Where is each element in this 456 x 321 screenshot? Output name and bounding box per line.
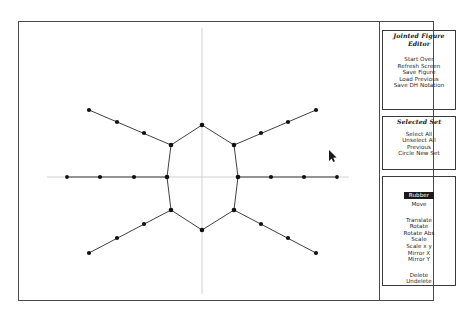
menu-item-scale-x-y[interactable]: Scale x y bbox=[383, 243, 455, 250]
panel-section-transform-tools: Rubber Move Translate Rotate Rotate Abs … bbox=[382, 176, 456, 286]
joint-upper-right-2 bbox=[286, 120, 290, 124]
section-title-line1: Jointed Figure bbox=[383, 32, 455, 40]
spacer bbox=[383, 47, 455, 56]
application-window: Jointed Figure Editor Start Over Refresh… bbox=[18, 21, 434, 301]
control-panel: Jointed Figure Editor Start Over Refresh… bbox=[380, 22, 433, 300]
menu-item-save-dh-notation[interactable]: Save DH Notation bbox=[383, 82, 455, 89]
spacer bbox=[383, 208, 455, 217]
menu-list-delete: Delete Undelete bbox=[383, 272, 455, 285]
menu-item-move[interactable]: Move bbox=[383, 201, 455, 208]
joint-lower-right-2 bbox=[286, 236, 290, 240]
limb-lower-left bbox=[89, 210, 171, 253]
joint-upper-left-3 bbox=[87, 108, 91, 112]
menu-item-load-previous[interactable]: Load Previous bbox=[383, 76, 455, 83]
menu-item-mirror-y[interactable]: Mirror Y bbox=[383, 256, 455, 263]
menu-list-figure-editor: Start Over Refresh Screen Save Figure Lo… bbox=[383, 56, 455, 89]
section-title-jointed-figure-editor: Jointed Figure Editor bbox=[383, 31, 455, 47]
joint-body-right-upper bbox=[232, 143, 237, 148]
menu-list-transforms: Translate Rotate Rotate Abs Scale Scale … bbox=[383, 217, 455, 263]
menu-item-previous[interactable]: Previous bbox=[383, 144, 455, 151]
limb-lower-right bbox=[234, 210, 316, 253]
joint-left-h-1 bbox=[132, 175, 136, 179]
menu-item-start-over[interactable]: Start Over bbox=[383, 56, 455, 63]
panel-section-selected-set: Selected Set Select All Unselect All Pre… bbox=[382, 116, 456, 170]
section-title-line2: Editor bbox=[383, 40, 455, 48]
menu-item-rubber[interactable]: Rubber bbox=[404, 192, 434, 199]
joint-body-right-mid bbox=[236, 175, 241, 180]
mouse-cursor-icon bbox=[329, 150, 337, 162]
joint-body-right-lower bbox=[232, 208, 237, 213]
menu-item-unselect-all[interactable]: Unselect All bbox=[383, 137, 455, 144]
section-title-line1: Selected Set bbox=[383, 118, 455, 126]
joint-lower-left-2 bbox=[115, 236, 119, 240]
joint-lower-left-1 bbox=[142, 222, 146, 226]
joint-upper-left-2 bbox=[115, 120, 119, 124]
joint-body-top bbox=[200, 123, 205, 128]
joint-right-h-1 bbox=[269, 175, 273, 179]
menu-item-delete[interactable]: Delete bbox=[383, 272, 455, 279]
joint-body-left-lower bbox=[169, 208, 174, 213]
panel-section-jointed-figure-editor: Jointed Figure Editor Start Over Refresh… bbox=[382, 30, 456, 110]
menu-item-rotate[interactable]: Rotate bbox=[383, 223, 455, 230]
menu-item-scale[interactable]: Scale bbox=[383, 236, 455, 243]
joint-right-h-3 bbox=[335, 175, 339, 179]
menu-item-rubber-selected-wrapper: Rubber bbox=[383, 182, 455, 201]
limb-upper-left bbox=[89, 110, 171, 145]
jointed-figure-graphic[interactable] bbox=[19, 22, 379, 300]
joint-lower-right-1 bbox=[259, 222, 263, 226]
menu-item-rotate-abs[interactable]: Rotate Abs bbox=[383, 230, 455, 237]
joint-lower-left-3 bbox=[87, 251, 91, 255]
joint-right-h-2 bbox=[302, 175, 306, 179]
joint-body-left-mid bbox=[165, 175, 170, 180]
joint-upper-right-1 bbox=[259, 131, 263, 135]
spacer bbox=[383, 263, 455, 272]
menu-item-save-figure[interactable]: Save Figure bbox=[383, 69, 455, 76]
menu-item-circle-new-set[interactable]: Circle New Set bbox=[383, 150, 455, 157]
joint-upper-right-3 bbox=[314, 108, 318, 112]
joint-left-h-3 bbox=[65, 175, 69, 179]
menu-item-select-all[interactable]: Select All bbox=[383, 131, 455, 138]
section-title-selected-set: Selected Set bbox=[383, 117, 455, 126]
menu-list-selected-set: Select All Unselect All Previous Circle … bbox=[383, 131, 455, 157]
joint-left-h-2 bbox=[98, 175, 102, 179]
menu-item-translate[interactable]: Translate bbox=[383, 217, 455, 224]
drawing-canvas[interactable] bbox=[19, 22, 379, 300]
menu-item-mirror-x[interactable]: Mirror X bbox=[383, 250, 455, 257]
menu-list-mode: Rubber Move bbox=[383, 182, 455, 208]
joint-lower-right-3 bbox=[314, 251, 318, 255]
joint-upper-left-1 bbox=[142, 131, 146, 135]
joint-body-left-upper bbox=[169, 143, 174, 148]
limb-upper-right bbox=[234, 110, 316, 145]
menu-item-undelete[interactable]: Undelete bbox=[383, 278, 455, 285]
joint-body-bottom bbox=[200, 228, 205, 233]
menu-item-refresh-screen[interactable]: Refresh Screen bbox=[383, 63, 455, 70]
